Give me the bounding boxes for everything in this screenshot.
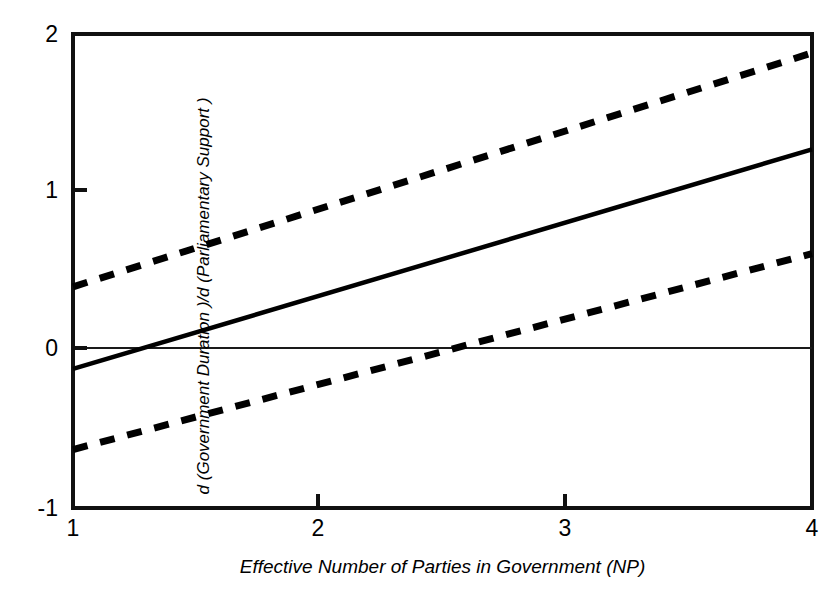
y-axis-title: d (Government Duration )/d (Parliamentar… bbox=[194, 98, 214, 495]
plot-canvas bbox=[0, 0, 837, 592]
x-tick-label-3: 3 bbox=[559, 517, 572, 540]
plot-frame bbox=[73, 34, 812, 508]
y-tick-label-0: 0 bbox=[20, 337, 58, 360]
y-tick-label-2: 2 bbox=[20, 23, 58, 46]
y-tick-label-minus-1: -1 bbox=[20, 497, 58, 520]
x-tick-label-2: 2 bbox=[312, 517, 325, 540]
x-axis-title: Effective Number of Parties in Governmen… bbox=[73, 556, 812, 578]
chart-figure: 2 1 0 -1 1 2 3 4 d (Government Duration … bbox=[0, 0, 837, 592]
x-tick-label-4: 4 bbox=[806, 517, 819, 540]
y-tick-label-1: 1 bbox=[20, 179, 58, 202]
x-tick-label-1: 1 bbox=[67, 517, 80, 540]
